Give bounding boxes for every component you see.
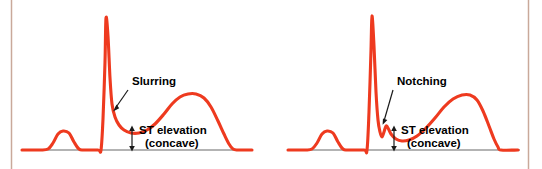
notching-arrow-head	[383, 119, 388, 125]
st-elevation-label-left: ST elevation	[139, 124, 207, 136]
st-concave-label-right: (concave)	[407, 137, 461, 149]
slurring-label: Slurring	[132, 75, 176, 87]
ecg-figure: Slurring ST elevation (concave) Notching…	[0, 0, 542, 169]
annotation-st-elevation-right: ST elevation (concave)	[391, 124, 469, 151]
st-elevation-arrow-up-right	[391, 126, 397, 132]
notching-leader-line	[384, 90, 393, 121]
st-elevation-label-right: ST elevation	[401, 124, 469, 136]
annotation-st-elevation-left: ST elevation (concave)	[129, 124, 207, 151]
st-concave-label-left: (concave)	[145, 137, 199, 149]
st-elevation-arrow-up-left	[129, 126, 135, 132]
slurring-leader-line	[116, 90, 129, 108]
ecg-canvas: Slurring ST elevation (concave) Notching…	[0, 0, 542, 169]
notching-label: Notching	[397, 75, 447, 87]
annotation-slurring: Slurring	[113, 75, 176, 111]
